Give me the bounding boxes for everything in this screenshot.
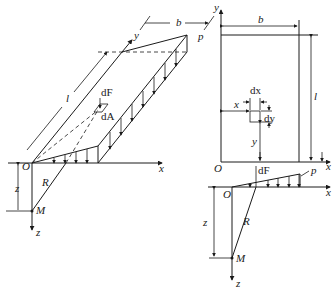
p-leader	[301, 171, 309, 176]
l-label: l	[66, 92, 69, 104]
side-load-arrows	[110, 49, 176, 149]
origin-label: O	[223, 188, 231, 200]
z-axis-label: z	[35, 226, 41, 238]
x-axis-label: x	[158, 162, 164, 174]
y-axis-label: y	[133, 29, 139, 41]
load-top-edge	[122, 35, 187, 52]
z-depth-label: z	[202, 216, 208, 228]
l-label: l	[314, 90, 317, 102]
y-coord-label: y	[251, 135, 257, 147]
b-label: b	[176, 16, 182, 28]
plate-left-edge	[32, 52, 122, 163]
r-label: R	[41, 176, 49, 188]
right-side-view: x z O dF p R z M	[202, 164, 331, 289]
df-label: dF	[258, 164, 270, 176]
left-3d-view: x y z O M R z b l p dF dA	[6, 16, 214, 238]
plate-right-edge	[98, 52, 187, 163]
z-depth-label: z	[14, 182, 20, 194]
z-axis-label: z	[235, 277, 241, 289]
right-top-view: y x O b l dx dy x y	[213, 1, 331, 174]
df-label: dF	[101, 86, 113, 98]
diagram-canvas: x y z O M R z b l p dF dA y	[0, 0, 336, 289]
x-coord-label: x	[233, 98, 239, 110]
point-m-label: M	[235, 252, 246, 264]
origin-label: O	[22, 160, 30, 172]
r-label: R	[242, 215, 250, 227]
y-axis-label: y	[213, 1, 219, 13]
dx-label: dx	[250, 84, 262, 96]
p-label: p	[197, 30, 204, 42]
origin-label: O	[214, 162, 222, 174]
x-axis-label: x	[325, 160, 331, 172]
dashed-to-element-2	[66, 110, 98, 163]
dy-label: dy	[264, 112, 276, 124]
element-dxdy	[250, 111, 260, 122]
x-axis-label: x	[325, 186, 331, 198]
p-label: p	[310, 164, 317, 176]
b-label: b	[258, 13, 264, 25]
point-m-label: M	[35, 204, 46, 216]
da-label: dA	[101, 110, 115, 122]
